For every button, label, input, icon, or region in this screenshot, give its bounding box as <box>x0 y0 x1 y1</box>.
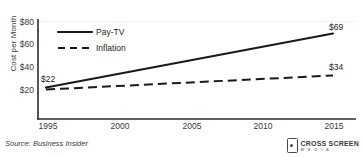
data-label-end-69: $69 <box>329 22 343 32</box>
data-label-end-34: $34 <box>329 62 343 72</box>
brand-logo: CROSS SCREEN M E D I A <box>287 138 359 153</box>
series-line-inflation <box>46 76 333 90</box>
series-line-pay-tv <box>46 34 333 88</box>
source-note: Source: Business Insider <box>5 139 88 148</box>
brand-subtitle: M E D I A <box>301 148 359 152</box>
legend-label-pay-tv: Pay-TV <box>96 27 124 37</box>
brand-name: CROSS SCREEN <box>301 140 359 147</box>
screen-icon <box>287 138 298 153</box>
brand-text: CROSS SCREEN M E D I A <box>301 140 359 152</box>
data-label-start-22: $22 <box>41 74 55 84</box>
legend-label-inflation: Inflation <box>96 43 126 53</box>
chart-container: Cost per Month $80 $60 $40 $20 1995 2000… <box>0 0 362 157</box>
